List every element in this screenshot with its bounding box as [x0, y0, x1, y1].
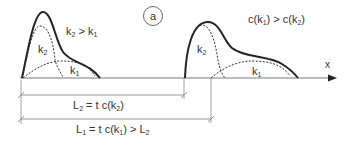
left-k1-label: k1: [70, 65, 79, 77]
right-pulse-k1-curve: [211, 61, 290, 78]
right-k2-label: k2: [197, 44, 206, 56]
x-axis-label: x: [325, 60, 330, 70]
x-axis-arrow-icon: [328, 75, 337, 82]
panel-label-text: a: [150, 10, 156, 22]
wave-packet-diagram: a x k2 > k1 k2 k1 c(k1) > c(k2) k2 k1 L2…: [0, 0, 353, 146]
L1-label: L1 = t c(k1) > L2: [76, 124, 149, 136]
right-k1-label: k1: [252, 66, 261, 78]
L2-label: L2 = t c(k2): [73, 100, 124, 112]
panel-label: a: [143, 6, 163, 26]
left-condition-label: k2 > k1: [66, 26, 97, 38]
right-condition-label: c(k1) > c(k2): [248, 14, 305, 26]
left-k2-label: k2: [38, 44, 47, 56]
